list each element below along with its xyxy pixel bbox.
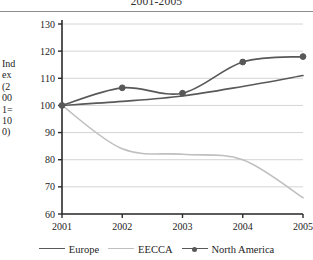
svg-text:70: 70: [45, 181, 55, 192]
plot-area: 60708090100110120130 2001200220032004200…: [0, 0, 313, 260]
chart-figure: 2001-2005 Ind ex (2 00 1= 10 0) 60708090…: [0, 0, 313, 260]
legend-label: EECCA: [138, 244, 172, 255]
svg-text:120: 120: [40, 46, 55, 57]
gridlines: [62, 24, 303, 214]
svg-text:80: 80: [45, 154, 55, 165]
legend-swatch-north-america: [182, 245, 208, 253]
svg-text:2004: 2004: [233, 221, 253, 232]
svg-text:90: 90: [45, 127, 55, 138]
svg-text:2005: 2005: [293, 221, 313, 232]
legend-item-europe[interactable]: Europe: [39, 244, 99, 255]
chart-legend: EuropeEECCANorth America: [0, 239, 313, 259]
legend-marker-dot: [192, 247, 197, 252]
legend-item-north-america[interactable]: North America: [182, 244, 275, 255]
svg-text:130: 130: [40, 19, 55, 30]
svg-text:100: 100: [40, 100, 55, 111]
svg-text:60: 60: [45, 209, 55, 220]
y-axis-tick-labels: 60708090100110120130: [40, 19, 55, 220]
svg-text:2001: 2001: [52, 221, 72, 232]
svg-text:2003: 2003: [173, 221, 193, 232]
legend-label: Europe: [69, 244, 99, 255]
svg-text:110: 110: [40, 73, 55, 84]
legend-label: North America: [212, 244, 275, 255]
x-axis-tick-labels: 20012002200320042005: [52, 221, 313, 232]
legend-swatch-eecca: [108, 245, 134, 253]
svg-text:2002: 2002: [112, 221, 132, 232]
legend-swatch-europe: [39, 245, 65, 253]
series-lines: [62, 57, 303, 198]
legend-item-eecca[interactable]: EECCA: [108, 244, 172, 255]
